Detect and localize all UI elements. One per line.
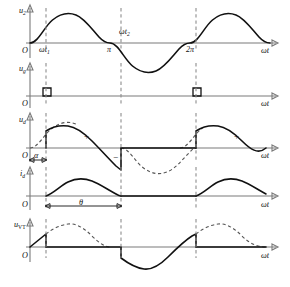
waveform-figure: u2 O ωt1 π ωt2 2π ωt ug O ωt — [0, 0, 290, 287]
ud-negative-area-sign: − — [113, 152, 118, 162]
ug-x-axis-label: ωt — [261, 99, 270, 108]
u2-axis-label: u2 — [19, 6, 26, 16]
ud-origin-label: O — [22, 151, 28, 160]
uvt-waveform-rise-1 — [30, 234, 46, 247]
ud-x-axis-label: ωt — [261, 151, 270, 160]
panel-id: id O θ ωt — [20, 167, 278, 210]
ud-waveform-2 — [196, 126, 266, 151]
theta-dimension: θ — [45, 198, 122, 208]
panel-u2: u2 O ωt1 π ωt2 2π ωt — [19, 5, 278, 73]
ud-positive-area-sign: + — [84, 131, 89, 141]
waveform-svg: u2 O ωt1 π ωt2 2π ωt ug O ωt — [0, 0, 290, 287]
ug-origin-label: O — [22, 99, 28, 108]
uvt-waveform-negative — [121, 234, 196, 269]
id-x-axis-label: ωt — [261, 200, 270, 209]
tick-label-2pi: 2π — [186, 45, 195, 54]
id-axis-label: id — [20, 169, 25, 179]
uvt-x-axis-label: ωt — [261, 251, 270, 260]
ug-pulse-2 — [193, 88, 201, 96]
ud-positive-area-sign-2: + — [234, 131, 239, 141]
id-origin-label: O — [22, 200, 28, 209]
u2-x-axis-label: ωt — [261, 46, 270, 55]
alpha-label: α — [34, 151, 39, 160]
theta-label: θ — [79, 198, 83, 207]
tick-label-wt1: ωt1 — [39, 45, 50, 55]
id-waveform-2 — [196, 179, 266, 196]
id-waveform-1 — [46, 179, 121, 196]
tick-label-pi: π — [107, 45, 112, 54]
ug-pulse-1 — [43, 88, 51, 96]
ug-axis-label: ug — [19, 64, 26, 74]
alpha-dimension: α — [29, 151, 47, 162]
panel-ug: ug O ωt — [19, 63, 278, 108]
uvt-origin-label: O — [22, 251, 28, 260]
ud-axis-label: ud — [19, 115, 26, 125]
tick-label-wt2: ωt2 — [119, 27, 130, 37]
uvt-ghost-sine-2 — [196, 224, 266, 247]
u2-origin-label: O — [22, 46, 28, 55]
ud-ghost-sine-2 — [121, 148, 196, 174]
panel-uvt: uVT O ωt — [14, 219, 278, 269]
panel-ud: ud O + − + α ωt — [19, 113, 278, 174]
ud-ghost-sine-3 — [180, 128, 203, 148]
uvt-ghost-sine-1 — [46, 224, 110, 247]
uvt-axis-label: uVT — [14, 220, 26, 230]
